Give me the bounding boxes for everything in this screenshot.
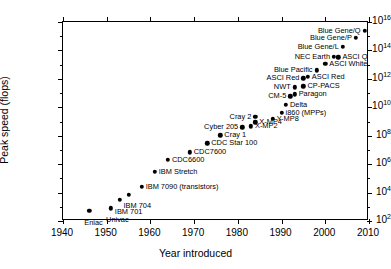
data-point-label: ASCI Red xyxy=(267,75,300,82)
x-tick-label: 2010 xyxy=(357,228,379,238)
y-tick-label: 1016 xyxy=(337,16,391,26)
x-tick-label: 1950 xyxy=(95,228,117,238)
y-tick-major xyxy=(58,193,63,194)
x-tick xyxy=(325,17,326,22)
x-tick-label: 1990 xyxy=(269,228,291,238)
data-point[interactable] xyxy=(188,150,192,154)
y-tick-major xyxy=(58,136,63,137)
data-point-label: Paragon xyxy=(299,91,327,98)
y-tick-label: 106 xyxy=(337,158,391,168)
y-tick-minor xyxy=(60,207,63,208)
y-tick-label: 1010 xyxy=(337,101,391,111)
y-tick-minor xyxy=(367,36,370,37)
y-tick-major xyxy=(58,107,63,108)
y-tick-minor xyxy=(367,178,370,179)
x-tick xyxy=(107,17,108,22)
y-tick-major xyxy=(58,50,63,51)
data-point-label: i860 (MPPs) xyxy=(286,109,327,116)
x-tick-label: 1970 xyxy=(182,228,204,238)
data-point[interactable] xyxy=(87,209,91,213)
data-point[interactable] xyxy=(218,133,222,137)
data-point[interactable] xyxy=(301,84,305,88)
data-point-label: Blue Gene/Q xyxy=(318,27,361,34)
data-point[interactable] xyxy=(166,158,170,162)
data-point-label: Cray 2 xyxy=(230,113,252,120)
peak-speed-scatter-chart: Peak speed (flops) EniacUnivacIBM 701IBM… xyxy=(0,0,391,269)
data-point-label: CDC6600 xyxy=(172,156,204,163)
y-tick-minor xyxy=(60,36,63,37)
y-tick-minor xyxy=(367,122,370,123)
data-point-label: ASCI Q xyxy=(342,54,367,61)
y-tick-label: 1014 xyxy=(337,44,391,54)
x-tick xyxy=(325,219,326,224)
y-tick-minor xyxy=(367,150,370,151)
y-tick-major xyxy=(58,22,63,23)
y-tick-minor xyxy=(60,65,63,66)
data-point-label: IBM 704 xyxy=(124,202,152,209)
x-tick xyxy=(282,17,283,22)
x-tick xyxy=(238,219,239,224)
data-point[interactable] xyxy=(240,125,244,129)
plot-area: EniacUnivacIBM 701IBM 704IBM 7090 (trans… xyxy=(62,21,368,220)
data-point-label: Blue Gene/P xyxy=(310,34,352,41)
data-point-label: Delta xyxy=(290,101,307,108)
x-tick xyxy=(150,219,151,224)
data-point-label: NEC Earth xyxy=(295,53,330,60)
data-point[interactable] xyxy=(205,141,209,145)
y-tick-label: 102 xyxy=(337,215,391,225)
x-tick-label: 1980 xyxy=(226,228,248,238)
y-tick-label: 1012 xyxy=(337,73,391,83)
data-point[interactable] xyxy=(354,35,358,39)
x-tick xyxy=(63,17,64,22)
data-point[interactable] xyxy=(253,114,257,118)
data-point[interactable] xyxy=(284,103,288,107)
x-tick xyxy=(194,219,195,224)
data-point[interactable] xyxy=(292,92,296,96)
y-tick-major xyxy=(58,79,63,80)
data-point-label: IBM 7090 (transistors) xyxy=(146,183,219,190)
data-point-label: CP-PACS xyxy=(307,83,339,90)
data-point[interactable] xyxy=(126,193,130,197)
data-point[interactable] xyxy=(118,198,122,202)
y-tick-minor xyxy=(60,122,63,123)
data-point[interactable] xyxy=(362,28,366,32)
y-tick-minor xyxy=(367,93,370,94)
data-point[interactable] xyxy=(323,61,327,65)
x-tick-label: 2000 xyxy=(313,228,335,238)
x-tick-label: 1960 xyxy=(138,228,160,238)
x-tick xyxy=(282,219,283,224)
data-point[interactable] xyxy=(139,184,143,188)
y-axis-title: Peak speed (flops) xyxy=(0,76,10,164)
data-point[interactable] xyxy=(109,206,113,210)
data-point[interactable] xyxy=(292,85,296,89)
data-point-label: IBM Stretch xyxy=(159,168,198,175)
data-point-label: Blue Pacific xyxy=(274,67,313,74)
y-tick-minor xyxy=(60,93,63,94)
data-point[interactable] xyxy=(153,169,157,173)
x-tick xyxy=(194,17,195,22)
data-point-label: CDC7600 xyxy=(194,148,226,155)
y-tick-label: 108 xyxy=(337,130,391,140)
data-point[interactable] xyxy=(249,124,253,128)
x-tick xyxy=(63,219,64,224)
y-tick-minor xyxy=(60,150,63,151)
y-tick-minor xyxy=(60,178,63,179)
data-point-label: Cray 1 xyxy=(224,131,246,138)
x-tick xyxy=(150,17,151,22)
y-tick-major xyxy=(58,164,63,165)
data-point-label: Cyber 205 xyxy=(204,123,238,130)
y-tick-minor xyxy=(367,207,370,208)
data-point-label: Blue Gene/L xyxy=(298,43,339,50)
data-point[interactable] xyxy=(306,75,310,79)
y-tick-label: 104 xyxy=(337,187,391,197)
data-point-label: CM-5 xyxy=(268,93,286,100)
data-point-label: NWT xyxy=(274,84,291,91)
x-tick-label: 1940 xyxy=(51,228,73,238)
data-point-label: Univac xyxy=(106,216,129,223)
data-point-label: CDC Star 100 xyxy=(211,139,257,146)
x-tick xyxy=(238,17,239,22)
data-point-label: Eniac xyxy=(84,219,103,226)
x-axis-title: Year introduced xyxy=(0,247,391,259)
